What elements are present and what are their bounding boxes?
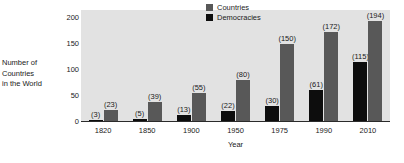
y-axis-title-line-3: in the World xyxy=(2,79,58,90)
x-tick-label: 1820 xyxy=(81,126,125,135)
y-axis-title: Number of Countries in the World xyxy=(2,58,58,90)
bar-value-label: (61) xyxy=(310,81,323,89)
bar-value-label: (115) xyxy=(352,53,369,61)
x-axis-title: Year xyxy=(81,140,390,149)
bar-value-label: (13) xyxy=(177,106,190,114)
bar-countries: (194) xyxy=(368,21,382,122)
y-tick-label: 100 xyxy=(53,66,79,74)
legend-swatch-countries xyxy=(206,4,213,11)
legend: Countries Democracies xyxy=(206,3,261,23)
bar-countries: (150) xyxy=(280,44,294,122)
legend-item-democracies: Democracies xyxy=(206,13,261,22)
x-tick-label: 1990 xyxy=(302,126,346,135)
bar-value-label: (80) xyxy=(236,71,249,79)
x-tick-label: 2010 xyxy=(346,126,390,135)
bar-value-label: (5) xyxy=(135,110,144,118)
y-tick-label: 150 xyxy=(53,40,79,48)
bar-countries: (172) xyxy=(324,32,338,122)
y-tick-label: 0 xyxy=(53,118,79,126)
bar-value-label: (30) xyxy=(265,97,278,105)
bar-value-label: (23) xyxy=(104,101,117,109)
bar-group: (3)(23) xyxy=(89,10,118,122)
bar-group: (61)(172) xyxy=(309,10,338,122)
y-tick-label: 50 xyxy=(53,92,79,100)
bar-value-label: (22) xyxy=(221,102,234,110)
bar-value-label: (150) xyxy=(278,35,296,43)
legend-label-democracies: Democracies xyxy=(217,14,261,22)
bar-value-label: (172) xyxy=(323,23,341,31)
bar-countries: (80) xyxy=(236,80,250,122)
y-axis-title-line-2: Countries xyxy=(2,69,58,80)
bar-countries: (55) xyxy=(192,93,206,122)
bar-democracies: (30) xyxy=(265,106,279,122)
x-tick-label: 1850 xyxy=(125,126,169,135)
bar-group: (5)(39) xyxy=(133,10,162,122)
bar-democracies: (61) xyxy=(309,90,323,122)
bar-group: (22)(80) xyxy=(221,10,250,122)
x-axis-line xyxy=(81,121,390,122)
bar-countries: (39) xyxy=(148,102,162,122)
bar-value-label: (39) xyxy=(148,93,161,101)
y-tick-label: 200 xyxy=(53,14,79,22)
bar-group: (30)(150) xyxy=(265,10,294,122)
bar-value-label: (194) xyxy=(367,12,385,20)
x-tick-label: 1975 xyxy=(258,126,302,135)
bar-group: (115)(194) xyxy=(353,10,382,122)
legend-label-countries: Countries xyxy=(217,4,249,12)
x-tick-label: 1900 xyxy=(169,126,213,135)
bar-value-label: (3) xyxy=(91,111,100,119)
bar-group: (13)(55) xyxy=(177,10,206,122)
x-tick-label: 1950 xyxy=(214,126,258,135)
bar-democracies: (115) xyxy=(353,62,367,122)
legend-swatch-democracies xyxy=(206,14,213,21)
bar-value-label: (55) xyxy=(192,84,205,92)
y-axis-title-line-1: Number of xyxy=(2,58,58,69)
bar-chart: Number of Countries in the World 0501001… xyxy=(0,0,404,163)
legend-item-countries: Countries xyxy=(206,3,261,12)
